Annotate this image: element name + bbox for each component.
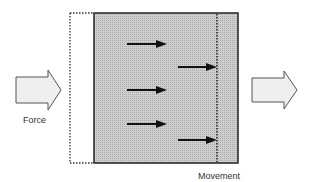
movement-label: Movement: [198, 171, 240, 181]
diagram-canvas: [0, 0, 309, 182]
output-arrow-icon: [252, 71, 297, 109]
original-position-outline: [70, 13, 94, 163]
force-arrow-icon: [16, 70, 61, 110]
force-label: Force: [23, 115, 46, 125]
